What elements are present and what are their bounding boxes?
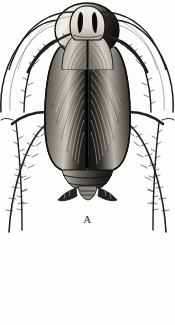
cercus-right <box>98 188 117 201</box>
tegmen-right <box>88 36 113 70</box>
figure-a-label: A <box>0 213 175 225</box>
pronotum <box>70 6 105 40</box>
figure-b <box>0 0 175 70</box>
tegmen-left <box>62 36 87 70</box>
cercus-left <box>58 188 77 201</box>
illustration-plate: A <box>0 0 175 325</box>
